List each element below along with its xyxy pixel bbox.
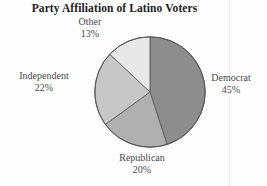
pie-label-independent-name: Independent (19, 70, 68, 81)
pie-label-other-name: Other (79, 16, 102, 27)
pie-label-independent: Independent 22% (2, 70, 86, 94)
pie-slices (95, 37, 205, 147)
pie-label-democrat-value: 45% (196, 84, 266, 96)
pie-label-independent-value: 22% (2, 82, 86, 94)
pie-label-democrat: Democrat 45% (196, 72, 266, 96)
pie-label-republican: Republican 20% (104, 152, 180, 176)
chart-title: Party Affiliation of Latino Voters (0, 2, 229, 14)
pie-label-democrat-name: Democrat (211, 72, 250, 83)
pie-svg (94, 36, 206, 148)
pie-label-other: Other 13% (60, 16, 120, 40)
pie-label-republican-name: Republican (119, 152, 165, 163)
chart-figure: Party Affiliation of Latino Voters Other… (0, 0, 267, 186)
pie-label-other-value: 13% (60, 28, 120, 40)
pie-chart (94, 36, 206, 148)
pie-label-republican-value: 20% (104, 164, 180, 176)
